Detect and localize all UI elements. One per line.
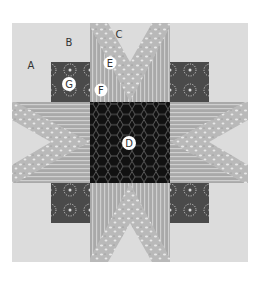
label-c: C <box>116 29 123 40</box>
corner-square-bottom-left <box>51 183 90 223</box>
label-a: A <box>28 60 35 71</box>
label-g: G <box>65 79 73 90</box>
corner-square-bottom-right <box>170 183 209 223</box>
quilt-block-diagram: A B C E F G D <box>0 0 267 284</box>
star-point-left <box>12 102 90 183</box>
star-point-right <box>170 102 248 183</box>
label-e: E <box>107 58 113 69</box>
label-d: D <box>125 138 133 149</box>
corner-square-top-right <box>170 62 209 102</box>
star-point-bottom <box>90 183 170 262</box>
label-f: F <box>98 85 104 96</box>
label-b: B <box>66 37 73 48</box>
